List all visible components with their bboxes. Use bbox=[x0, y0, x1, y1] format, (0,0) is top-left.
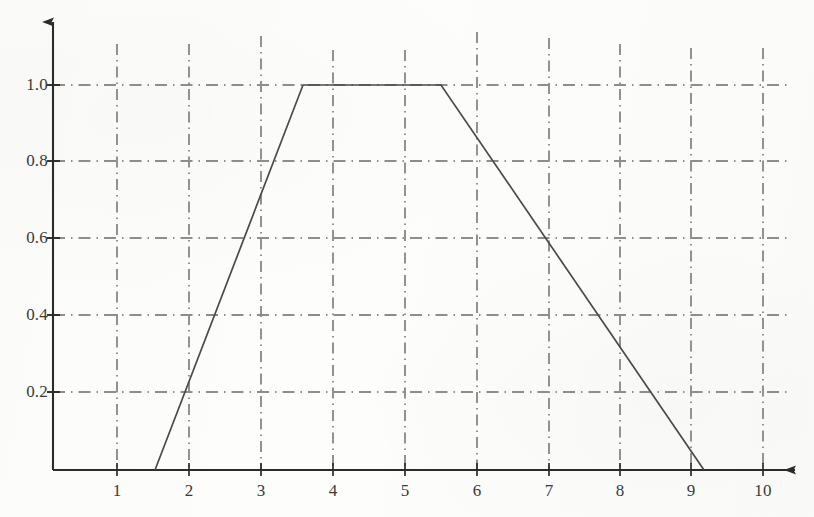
x-tick-label-9: 9 bbox=[669, 481, 713, 501]
horizontal-gridlines bbox=[53, 85, 790, 392]
x-tick-label-5: 5 bbox=[383, 481, 427, 501]
x-tick-label-8: 8 bbox=[598, 481, 642, 501]
x-tick-label-6: 6 bbox=[455, 481, 499, 501]
x-tick-label-1: 1 bbox=[95, 481, 139, 501]
axes bbox=[53, 22, 795, 470]
y-tick-label-0.6: 0.6 bbox=[0, 228, 48, 248]
y-tick-label-0.2: 0.2 bbox=[0, 382, 48, 402]
x-tick-label-7: 7 bbox=[527, 481, 571, 501]
membership-function-curve bbox=[155, 85, 704, 470]
y-tick-label-1.0: 1.0 bbox=[0, 75, 48, 95]
x-tick-label-4: 4 bbox=[311, 481, 355, 501]
y-tick-label-0.8: 0.8 bbox=[0, 151, 48, 171]
chart-figure: 1 2 3 4 5 6 7 8 9 10 1.0 0.8 0.6 0.4 0.2 bbox=[0, 0, 814, 517]
y-tick-label-0.4: 0.4 bbox=[0, 305, 48, 325]
vertical-gridlines bbox=[117, 32, 763, 470]
plot-canvas bbox=[0, 0, 814, 517]
x-tick-label-10: 10 bbox=[741, 481, 785, 501]
x-tick-label-2: 2 bbox=[167, 481, 211, 501]
x-tick-label-3: 3 bbox=[239, 481, 283, 501]
curve-polyline bbox=[155, 85, 704, 470]
